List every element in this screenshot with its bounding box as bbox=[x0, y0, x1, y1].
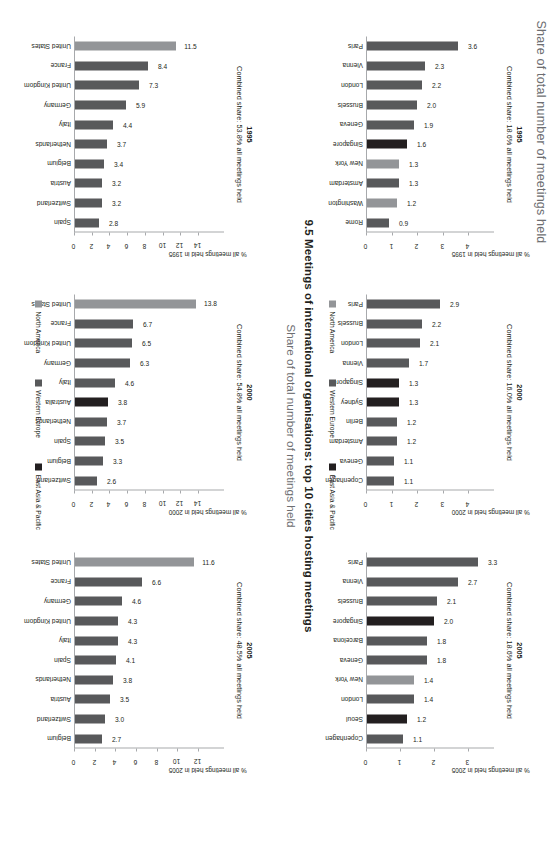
bar[interactable] bbox=[74, 655, 116, 664]
bar[interactable] bbox=[74, 456, 103, 465]
bar[interactable] bbox=[366, 198, 397, 207]
x-axis-line bbox=[366, 36, 367, 232]
bar[interactable] bbox=[74, 41, 176, 50]
bar[interactable] bbox=[74, 61, 148, 70]
bar[interactable] bbox=[366, 41, 458, 50]
bar[interactable] bbox=[366, 80, 422, 89]
bar-value-label: 2.0 bbox=[444, 617, 453, 624]
bar[interactable] bbox=[74, 218, 99, 227]
bar[interactable] bbox=[74, 178, 102, 187]
bar[interactable] bbox=[366, 178, 399, 187]
bar[interactable] bbox=[366, 694, 414, 703]
bar[interactable] bbox=[366, 596, 437, 605]
bar[interactable] bbox=[74, 694, 110, 703]
bar[interactable] bbox=[74, 80, 139, 89]
legend-item[interactable]: Western Europe bbox=[329, 379, 336, 438]
bar[interactable] bbox=[74, 557, 194, 566]
x-axis-category-label: Switzerland bbox=[18, 709, 74, 729]
x-axis-category-label: London bbox=[310, 75, 366, 95]
x-axis-category-labels: United StatesFranceGermanyUnited Kingdom… bbox=[18, 552, 74, 748]
bar[interactable] bbox=[74, 100, 126, 109]
bar[interactable] bbox=[74, 198, 102, 207]
bar-group: 2.1 bbox=[366, 591, 494, 611]
bar-value-label: 1.6 bbox=[417, 140, 426, 147]
bar[interactable] bbox=[74, 358, 130, 367]
bar[interactable] bbox=[74, 139, 107, 148]
bar-value-label: 6.5 bbox=[142, 339, 151, 346]
y-axis-tick bbox=[95, 748, 96, 751]
bar[interactable] bbox=[366, 139, 407, 148]
bar[interactable] bbox=[366, 456, 394, 465]
bar[interactable] bbox=[366, 338, 420, 347]
bar[interactable] bbox=[366, 476, 394, 485]
bar-value-label: 1.2 bbox=[417, 715, 426, 722]
bar[interactable] bbox=[366, 577, 458, 586]
legend-item[interactable]: North America bbox=[35, 300, 42, 353]
legend-item[interactable]: East Asia & Pacific bbox=[35, 463, 42, 529]
y-axis-tick-label: 3 bbox=[440, 243, 444, 250]
chart-header: 2000Combined share: 54.8% all meetings h… bbox=[234, 294, 254, 490]
bar[interactable] bbox=[74, 616, 118, 625]
bar-value-label: 1.3 bbox=[409, 179, 418, 186]
legend-item[interactable]: Western Europe bbox=[35, 379, 42, 438]
bar[interactable] bbox=[366, 417, 397, 426]
bar[interactable] bbox=[366, 436, 397, 445]
bar[interactable] bbox=[366, 218, 389, 227]
x-axis-category-label: Belgium bbox=[18, 154, 74, 174]
bar-value-label: 3.2 bbox=[112, 179, 121, 186]
bar[interactable] bbox=[366, 299, 440, 308]
bar[interactable] bbox=[74, 734, 102, 743]
bar-value-label: 2.3 bbox=[435, 62, 444, 69]
bar-group: 3.3 bbox=[366, 552, 494, 572]
bar[interactable] bbox=[74, 397, 108, 406]
bar[interactable] bbox=[74, 338, 132, 347]
bar[interactable] bbox=[74, 159, 104, 168]
bar[interactable] bbox=[366, 378, 399, 387]
chart-combined-share-label: Combined share: 18.6% all meetings held bbox=[504, 36, 514, 232]
bar-value-label: 3.7 bbox=[117, 140, 126, 147]
y-axis-tick-label: 0 bbox=[364, 243, 368, 250]
bar[interactable] bbox=[74, 636, 118, 645]
y-axis-tick-label: 1 bbox=[389, 501, 393, 508]
bar[interactable] bbox=[74, 596, 122, 605]
bar[interactable] bbox=[366, 100, 417, 109]
bar[interactable] bbox=[366, 61, 425, 70]
bar-group: 1.1 bbox=[366, 470, 494, 490]
y-axis-line bbox=[366, 231, 494, 232]
bar[interactable] bbox=[74, 577, 142, 586]
legend-item[interactable]: North America bbox=[329, 300, 336, 353]
bar[interactable] bbox=[366, 557, 478, 566]
bar[interactable] bbox=[74, 319, 133, 328]
bar[interactable] bbox=[366, 734, 403, 743]
y-axis-tick-label: 2 bbox=[92, 759, 96, 766]
bar-value-label: 3.3 bbox=[488, 558, 497, 565]
bar[interactable] bbox=[74, 378, 115, 387]
bar[interactable] bbox=[366, 655, 427, 664]
legend-item[interactable]: East Asia & Pacific bbox=[329, 463, 336, 529]
bar[interactable] bbox=[74, 675, 113, 684]
bar[interactable] bbox=[74, 436, 105, 445]
bar[interactable] bbox=[366, 358, 409, 367]
bar[interactable] bbox=[74, 299, 196, 308]
bar[interactable] bbox=[74, 476, 97, 485]
bar-group: 3.0 bbox=[74, 709, 224, 729]
bar-group: 1.2 bbox=[366, 431, 494, 451]
bar-group: 2.9 bbox=[366, 294, 494, 314]
bar[interactable] bbox=[366, 397, 399, 406]
y-axis-tick-label: 0 bbox=[364, 759, 368, 766]
chart-year-label: 1995 bbox=[244, 36, 254, 232]
bar[interactable] bbox=[74, 120, 113, 129]
bar-value-label: 2.7 bbox=[468, 578, 477, 585]
bar[interactable] bbox=[366, 714, 407, 723]
bar[interactable] bbox=[366, 616, 434, 625]
x-axis-category-label: France bbox=[18, 314, 74, 334]
bar[interactable] bbox=[74, 417, 107, 426]
bar[interactable] bbox=[366, 120, 414, 129]
bar[interactable] bbox=[366, 675, 414, 684]
y-axis-tick-label: 3 bbox=[466, 759, 470, 766]
bar[interactable] bbox=[74, 714, 105, 723]
bar[interactable] bbox=[366, 319, 422, 328]
bar-group: 1.4 bbox=[366, 689, 494, 709]
bar[interactable] bbox=[366, 159, 399, 168]
bar[interactable] bbox=[366, 636, 427, 645]
